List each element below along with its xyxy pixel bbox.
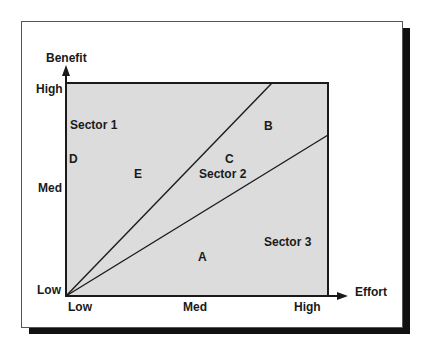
point-a-label: A [198, 251, 207, 263]
point-b-label: B [264, 120, 273, 132]
y-tick-high: High [36, 83, 63, 95]
x-tick-med: Med [183, 301, 207, 313]
sector-3-label: Sector 3 [264, 236, 311, 248]
y-axis-arrow-icon [62, 65, 70, 76]
sector-2-label: Sector 2 [199, 168, 246, 180]
point-e-label: E [134, 168, 142, 180]
y-axis-title: Benefit [46, 52, 87, 64]
point-d-label: D [69, 153, 78, 165]
point-c-label: C [225, 153, 234, 165]
x-axis-title: Effort [355, 286, 387, 298]
x-tick-high: High [294, 301, 321, 313]
y-tick-low: Low [37, 284, 61, 296]
x-axis-arrow-icon [337, 292, 348, 300]
y-tick-med: Med [38, 182, 62, 194]
x-tick-low: Low [68, 301, 92, 313]
plot-area [66, 83, 328, 296]
sector-1-label: Sector 1 [70, 119, 117, 131]
